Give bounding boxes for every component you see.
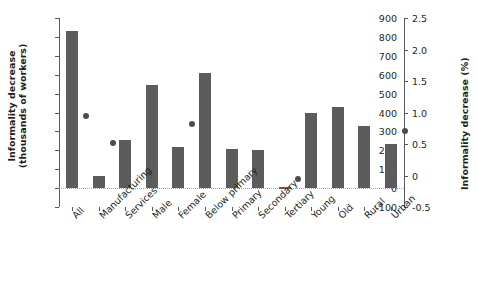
data-point <box>402 128 408 134</box>
informality-decrease-chart: Informality decrease(thousands of worker… <box>0 0 477 289</box>
y-axis-left-tick-label: 400 <box>379 107 397 118</box>
data-point <box>189 121 195 127</box>
y-axis-left-tick <box>55 56 59 57</box>
y-axis-right-title: Informality decrease (%) <box>459 57 470 190</box>
y-axis-right-tick-label: 1.0 <box>412 107 427 118</box>
y-axis-left-tick <box>55 113 59 114</box>
y-axis-left-line <box>59 18 60 207</box>
y-axis-right-tick-label: 0.5 <box>412 139 427 150</box>
y-axis-left-tick-label: 600 <box>379 69 397 80</box>
y-axis-right-tick-label: 0 <box>412 170 418 181</box>
y-axis-left-tick-label: 900 <box>379 13 397 24</box>
bar <box>332 107 344 188</box>
y-axis-left-title: Informality decrease(thousands of worker… <box>6 16 28 196</box>
y-axis-left-tick <box>55 37 59 38</box>
data-point <box>110 140 116 146</box>
y-axis-left-tick-label: 800 <box>379 31 397 42</box>
y-axis-right-tick <box>404 144 408 145</box>
y-axis-right-tick <box>404 113 408 114</box>
y-axis-right-tick <box>404 81 408 82</box>
y-axis-left-tick <box>55 18 59 19</box>
bar <box>305 113 317 188</box>
y-axis-left-tick-label: 700 <box>379 50 397 61</box>
y-axis-right-tick-label: 2.5 <box>412 13 427 24</box>
y-axis-left-tick-label: 500 <box>379 88 397 99</box>
data-point <box>83 113 89 119</box>
bar <box>93 176 105 188</box>
bar <box>358 126 370 188</box>
plot-area: -1000100200300400500600700800900 -0.500.… <box>59 18 404 207</box>
y-axis-left-title-text: Informality decrease(thousands of worker… <box>6 44 28 169</box>
bar <box>385 144 397 188</box>
y-axis-right-tick <box>404 18 408 19</box>
y-axis-right-tick-label: -0.5 <box>412 202 431 213</box>
y-axis-right-tick <box>404 176 408 177</box>
y-axis-right-tick-label: 2.0 <box>412 44 427 55</box>
y-axis-right-tick-label: 1.5 <box>412 76 427 87</box>
bar <box>172 147 184 188</box>
y-axis-left-tick <box>55 207 59 208</box>
y-axis-left-tick <box>55 188 59 189</box>
bar <box>66 31 78 188</box>
bar <box>199 73 211 188</box>
y-axis-left-tick <box>55 150 59 151</box>
y-axis-left-tick <box>55 94 59 95</box>
data-point <box>295 176 301 182</box>
y-axis-left-tick <box>55 131 59 132</box>
y-axis-left-tick <box>55 75 59 76</box>
y-axis-left-tick-label: 300 <box>379 126 397 137</box>
y-axis-right-tick <box>404 50 408 51</box>
y-axis-left-tick <box>55 169 59 170</box>
